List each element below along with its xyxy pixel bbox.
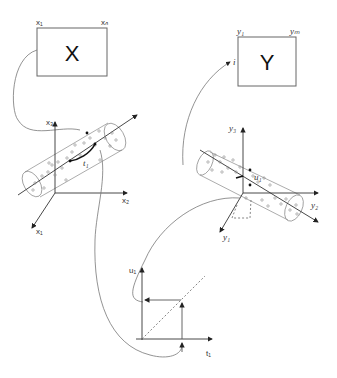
y-right-index: yₘ xyxy=(289,26,300,36)
x-left-index: x₁ xyxy=(36,18,43,27)
x1-axis-label: x₁ xyxy=(36,227,43,236)
inner-relation-plot: u₁ t₁ xyxy=(129,266,212,358)
y-block-label: Y xyxy=(260,50,275,75)
x-block-label: X xyxy=(65,41,80,66)
t1-score-label: t₁ xyxy=(83,158,89,168)
y-space-plot: y₃ y₂ y₁ u₁ xyxy=(193,123,318,242)
x-space-to-inner-curve xyxy=(95,150,182,357)
y3-axis-label: y₃ xyxy=(228,123,236,133)
y-space-to-inner-curve xyxy=(133,198,240,302)
space-to-y-curve xyxy=(183,62,230,165)
y-left-index: y₁ xyxy=(236,26,244,36)
x-right-index: xₙ xyxy=(101,18,108,27)
x-space-plot: x₃ x₂ x₁ t₁ xyxy=(18,115,137,236)
y1-axis-label: y₁ xyxy=(222,232,230,242)
x-block: X x₁ xₙ xyxy=(36,18,108,76)
u1-axis-label: u₁ xyxy=(129,266,136,275)
t1-axis-label: t₁ xyxy=(206,349,211,358)
y2-axis-label: y₂ xyxy=(310,200,318,210)
x3-axis-label: x₃ xyxy=(46,118,53,127)
u1-score-label: u₁ xyxy=(254,172,262,182)
y-entry-mark: i xyxy=(233,57,236,67)
x2-axis-label: x₂ xyxy=(122,196,129,205)
y-block: Y y₁ yₘ i xyxy=(233,26,300,86)
pls-diagram: X x₁ xₙ Y y₁ yₘ i x₃ x₂ x₁ xyxy=(0,0,337,378)
